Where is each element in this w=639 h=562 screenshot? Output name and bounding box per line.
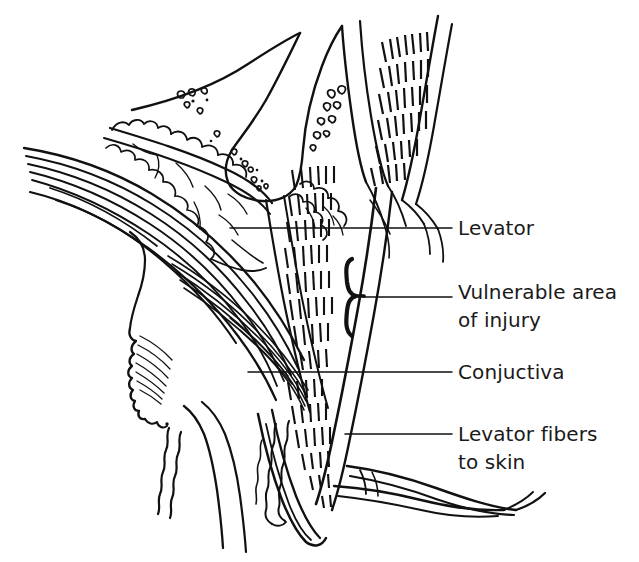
label-levator: Levator	[458, 214, 534, 242]
label-vulnerable-line-1: Vulnerable area	[458, 280, 617, 304]
label-vulnerable-area-of-injury: Vulnerable areaof injury	[458, 278, 617, 334]
label-vulnerable-line-2: of injury	[458, 308, 541, 332]
label-conjuctiva: Conjuctiva	[458, 358, 565, 386]
label-levator-fibers-to-skin: Levator fibersto skin	[458, 420, 598, 476]
label-levator-fibers-line-2: to skin	[458, 450, 525, 474]
eyelid-anatomy-figure: Levator Vulnerable areaof injury Conjuct…	[0, 0, 639, 562]
label-levator-fibers-line-1: Levator fibers	[458, 422, 598, 446]
